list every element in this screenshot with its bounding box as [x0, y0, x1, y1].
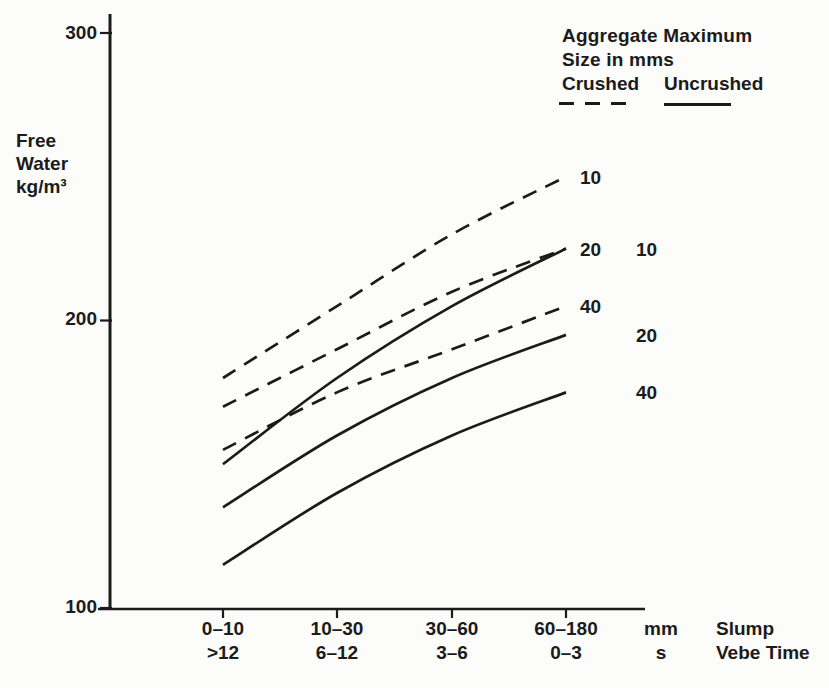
legend-crushed-label: Crushed: [562, 74, 639, 94]
x-tick-slump-3: 30–60: [407, 619, 497, 639]
x-axis-name-slump: Slump: [716, 619, 774, 639]
series-label-crushed-20mm: 20: [580, 239, 601, 260]
x-tick-slump-2: 10–30: [292, 619, 382, 639]
legend-title-line1: Aggregate Maximum: [562, 26, 752, 46]
legend-uncrushed-label: Uncrushed: [664, 74, 763, 94]
series-label-crushed-10mm: 10: [580, 167, 601, 188]
series-label-uncrushed-40mm: 40: [636, 382, 657, 403]
x-tick-slump-1: 0–10: [178, 619, 268, 639]
x-tick-vebe-2: 6–12: [292, 643, 382, 663]
y-axis-title-line1: Free: [16, 129, 68, 152]
series-curve-crushed-40mm: [223, 306, 566, 450]
x-unit-slump: mm: [616, 619, 706, 639]
series-curve-uncrushed-20mm: [223, 335, 566, 508]
series-label-uncrushed-20mm: 20: [636, 325, 657, 346]
x-tick-slump-4: 60–180: [521, 619, 611, 639]
y-tick-label-100: 100: [40, 597, 97, 617]
series-label-uncrushed-10mm: 10: [636, 239, 657, 260]
legend-title-line2: Size in mms: [562, 50, 674, 70]
y-tick-label-200: 200: [40, 309, 97, 329]
series-curve-crushed-10mm: [223, 177, 566, 378]
y-axis-title-line3: kg/m³: [16, 175, 68, 198]
x-axis-name-vebe: Vebe Time: [716, 643, 810, 663]
x-tick-vebe-1: >12: [178, 643, 268, 663]
legend-uncrushed-line-sample: [664, 103, 731, 106]
y-axis-title: Free Water kg/m³: [16, 129, 68, 198]
series-label-crushed-40mm: 40: [580, 296, 601, 317]
y-tick-label-300: 300: [40, 23, 97, 43]
x-tick-vebe-4: 0–3: [521, 643, 611, 663]
x-unit-vebe: s: [616, 643, 706, 663]
series-curve-uncrushed-10mm: [223, 249, 566, 465]
y-axis-title-line2: Water: [16, 152, 68, 175]
x-tick-vebe-3: 3–6: [407, 643, 497, 663]
legend-crushed-line-sample: [559, 102, 626, 105]
series-curve-uncrushed-40mm: [223, 392, 566, 565]
free-water-chart-figure: 102040102040 Free Water kg/m³ 300 200 10…: [0, 0, 829, 688]
